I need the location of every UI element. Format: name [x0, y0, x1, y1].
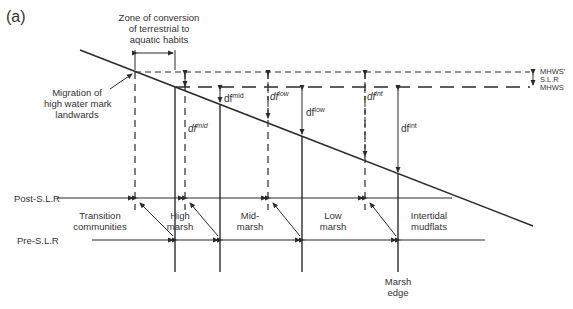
zone-line: mudflats	[405, 221, 453, 232]
zone-high-marsh: High marsh	[162, 210, 198, 232]
annotation-line: Zone of conversion	[118, 12, 200, 23]
post-slr-label: Post-S.L.R	[14, 193, 60, 204]
migration-label: Migration of high water mark landwards	[44, 87, 110, 120]
annotation-line: Migration of	[44, 87, 110, 98]
df-low-post-label: dflow	[270, 90, 289, 102]
annotation-line: landwards	[44, 109, 110, 120]
zone-intertidal-mudflats: Intertidal mudflats	[405, 210, 453, 232]
diagram-canvas	[0, 0, 573, 309]
zone-line: Intertidal	[405, 210, 453, 221]
marsh-edge-line: Marsh	[380, 276, 416, 287]
pre-slr-label: Pre-S.L.R	[17, 235, 59, 246]
marsh-edge-label: Marsh edge	[380, 276, 416, 298]
mhws-label: MHWS	[540, 84, 565, 92]
zone-line: Mid-	[230, 210, 270, 221]
annotation-line: of terrestrial to	[118, 23, 200, 34]
annotation-line: high water mark	[44, 98, 110, 109]
df-int-pre-label: dfint	[401, 122, 417, 134]
zone-mid-marsh: Mid- marsh	[230, 210, 270, 232]
annotation-line: aquatic habits	[118, 34, 200, 45]
df-low-pre-label: dflow	[306, 106, 325, 118]
df-mid-pre-label: dfmid	[224, 92, 244, 104]
zone-line: Transition	[70, 210, 130, 221]
df-mid-post-label: dfmid	[188, 122, 208, 134]
zone-line: Low	[313, 210, 353, 221]
marsh-zonation-diagram: (a) Zone of conversion of terrestrial to…	[0, 0, 573, 309]
panel-label: (a)	[6, 8, 26, 26]
zone-low-marsh: Low marsh	[313, 210, 353, 232]
zone-line: marsh	[230, 221, 270, 232]
df-int-post-label: dfint	[367, 90, 383, 102]
zone-line: marsh	[313, 221, 353, 232]
zone-transition-communities: Transition communities	[70, 210, 130, 232]
zone-line: marsh	[162, 221, 198, 232]
zone-line: High	[162, 210, 198, 221]
land-surface-slope	[80, 50, 533, 226]
zone-of-conversion-label: Zone of conversion of terrestrial to aqu…	[118, 12, 200, 45]
zone-line: communities	[70, 221, 130, 232]
water-level-labels: MHWS' S.L.R MHWS	[540, 68, 565, 92]
marsh-edge-line: edge	[380, 287, 416, 298]
